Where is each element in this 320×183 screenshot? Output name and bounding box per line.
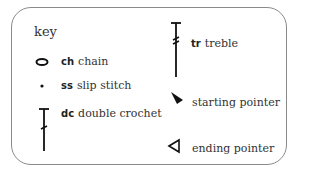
- key-item-treble: trtreble: [191, 38, 238, 49]
- key-item-chain: chchain: [61, 56, 108, 67]
- starting-pointer-icon: [170, 91, 184, 105]
- key-title: key: [34, 25, 57, 38]
- label-treble: treble: [205, 37, 238, 50]
- abbr-ch: ch: [61, 56, 74, 67]
- key-item-double-crochet: dcdouble crochet: [61, 108, 162, 119]
- slip-stitch-dot-icon: [40, 84, 44, 88]
- abbr-dc: dc: [61, 108, 74, 119]
- label-slip-stitch: slip stitch: [77, 79, 131, 92]
- ending-pointer-icon: [167, 138, 181, 154]
- double-crochet-icon: [38, 108, 50, 152]
- treble-icon: [170, 22, 182, 78]
- key-item-slip-stitch: ssslip stitch: [61, 80, 131, 91]
- chain-oval-icon: [35, 58, 49, 66]
- key-item-starting-pointer: starting pointer: [192, 97, 280, 108]
- label-double-crochet: double crochet: [78, 107, 162, 120]
- abbr-ss: ss: [61, 80, 73, 91]
- key-item-ending-pointer: ending pointer: [192, 143, 274, 154]
- label-chain: chain: [78, 55, 108, 68]
- abbr-tr: tr: [191, 38, 201, 49]
